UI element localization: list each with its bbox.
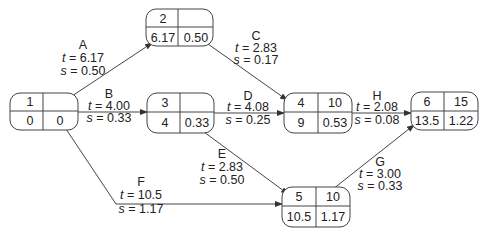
node-4-number: 4	[298, 96, 305, 110]
activity-d-time: t = 4.08	[227, 100, 269, 114]
node-6-top-right: 15	[454, 95, 468, 109]
node-1-expected-time: 0	[27, 114, 34, 128]
label-e: E t = 2.83 s = 0.50	[200, 147, 245, 187]
node-1: 1 0 0	[10, 93, 78, 130]
label-g: G t = 3.00 s = 0.33	[358, 155, 403, 193]
node-5-number: 5	[296, 190, 303, 204]
activity-h-time: t = 2.08	[356, 100, 398, 114]
label-b: B t = 4.00 s = 0.33	[87, 87, 132, 125]
node-6-number: 6	[424, 95, 431, 109]
node-5-expected-time: 10.5	[287, 210, 311, 224]
edge-f-arrow	[66, 129, 282, 204]
node-6-std-dev: 1.22	[449, 114, 473, 128]
activity-a-time: t = 6.17	[62, 51, 104, 65]
node-2-number: 2	[160, 12, 167, 26]
activity-c-sd: s = 0.17	[234, 53, 279, 67]
node-3-std-dev: 0.33	[185, 116, 209, 130]
activity-a-sd: s = 0.50	[61, 64, 106, 78]
node-5: 5 10 10.5 1.17	[282, 187, 350, 227]
activity-b-sd: s = 0.33	[87, 111, 132, 125]
activity-h-sd: s = 0.08	[355, 113, 400, 127]
node-1-std-dev: 0	[57, 114, 64, 128]
activity-f-sd: s = 1.17	[119, 202, 164, 216]
node-5-std-dev: 1.17	[321, 210, 345, 224]
node-2-std-dev: 0.50	[184, 31, 208, 45]
label-c: C t = 2.83 s = 0.17	[234, 29, 279, 67]
node-6: 6 15 13.5 1.22	[411, 92, 478, 130]
node-3: 3 4 0.33	[147, 93, 214, 133]
node-2-expected-time: 6.17	[151, 31, 175, 45]
activity-d-sd: s = 0.25	[226, 113, 271, 127]
activity-g-sd: s = 0.33	[358, 179, 403, 193]
label-f: F t = 10.5 s = 1.17	[119, 175, 164, 216]
activity-e-sd: s = 0.50	[200, 173, 245, 187]
node-2: 2 6.17 0.50	[146, 9, 213, 46]
label-a: A t = 6.17 s = 0.50	[61, 38, 106, 78]
pert-network-diagram: 1 0 0 2 6.17 0.50 3 4 0.33 4 10 9 0.53 5	[0, 0, 484, 237]
node-3-expected-time: 4	[162, 116, 169, 130]
node-4-expected-time: 9	[298, 116, 305, 130]
activity-f-name: F	[137, 175, 145, 189]
label-h: H t = 2.08 s = 0.08	[355, 89, 400, 127]
node-4: 4 10 9 0.53	[284, 93, 352, 133]
node-4-top-right: 10	[328, 96, 342, 110]
node-4-std-dev: 0.53	[323, 116, 347, 130]
node-6-expected-time: 13.5	[415, 114, 439, 128]
node-1-number: 1	[27, 95, 34, 109]
label-d: D t = 4.08 s = 0.25	[226, 89, 271, 127]
node-3-number: 3	[162, 96, 169, 110]
activity-a-name: A	[79, 38, 88, 52]
activity-f-time: t = 10.5	[120, 188, 162, 202]
node-5-top-right: 10	[326, 190, 340, 204]
activity-e-time: t = 2.83	[201, 160, 243, 174]
activity-e-name: E	[218, 147, 226, 161]
